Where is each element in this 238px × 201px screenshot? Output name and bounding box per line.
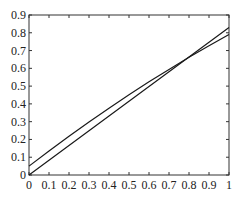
y-tick-label: 0 <box>20 168 26 182</box>
series-group <box>29 27 229 175</box>
series-line-2 <box>29 35 229 167</box>
x-axis: 00.10.20.30.40.50.60.70.80.91 <box>26 15 232 192</box>
x-tick-label: 0.4 <box>102 178 117 192</box>
x-tick-label: 0.2 <box>62 178 77 192</box>
series-line-1 <box>29 27 229 175</box>
line-chart: 00.10.20.30.40.50.60.70.80.91 00.10.20.3… <box>0 0 238 201</box>
x-tick-label: 0.6 <box>142 178 157 192</box>
y-axis: 00.10.20.30.40.50.60.70.80.9 <box>11 8 229 182</box>
x-tick-label: 0 <box>26 178 32 192</box>
y-tick-label: 0.1 <box>11 150 26 164</box>
x-tick-label: 0.5 <box>122 178 137 192</box>
y-tick-label: 0.5 <box>11 79 26 93</box>
y-tick-label: 0.4 <box>11 97 26 111</box>
y-tick-label: 0.6 <box>11 61 26 75</box>
y-tick-label: 0.2 <box>11 132 26 146</box>
x-tick-label: 0.9 <box>202 178 217 192</box>
x-tick-label: 0.3 <box>82 178 97 192</box>
x-tick-label: 0.1 <box>42 178 57 192</box>
y-tick-label: 0.3 <box>11 115 26 129</box>
x-tick-label: 0.7 <box>162 178 177 192</box>
x-tick-label: 0.8 <box>182 178 197 192</box>
y-tick-label: 0.7 <box>11 44 26 58</box>
y-tick-label: 0.9 <box>11 8 26 22</box>
x-tick-label: 1 <box>226 178 232 192</box>
y-tick-label: 0.8 <box>11 26 26 40</box>
